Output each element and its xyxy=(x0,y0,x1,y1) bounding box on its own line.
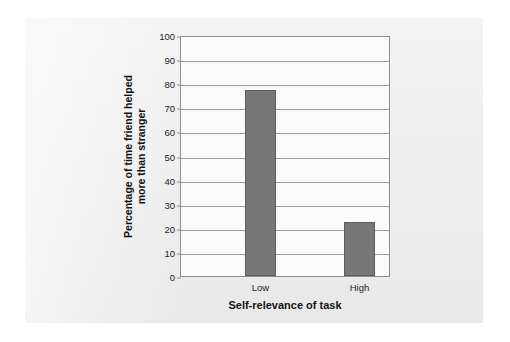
y-axis-tick-mark xyxy=(177,133,181,134)
y-axis-tick-label: 40 xyxy=(164,177,175,187)
x-axis-category-label: High xyxy=(350,283,370,293)
y-axis-tick-label: 70 xyxy=(164,105,175,115)
y-axis-tick-mark xyxy=(177,181,181,182)
x-axis-title: Self-relevance of task xyxy=(180,299,390,312)
figure-root: Percentage of time friend helped more th… xyxy=(0,0,510,342)
gridline xyxy=(181,206,389,207)
gridline xyxy=(181,158,389,159)
y-axis-tick-label: 10 xyxy=(164,249,175,259)
y-axis-tick-label: 80 xyxy=(164,80,175,90)
y-axis-tick-label: 30 xyxy=(164,201,175,211)
y-axis-tick-mark xyxy=(177,229,181,230)
y-axis-title-line-1: Percentage of time friend helped xyxy=(122,75,135,238)
y-axis-tick-label: 20 xyxy=(164,225,175,235)
y-axis-tick-mark xyxy=(177,157,181,158)
gridline xyxy=(181,133,389,134)
gridline xyxy=(181,109,389,110)
gridline xyxy=(181,61,389,62)
gridline xyxy=(181,182,389,183)
y-axis-title: Percentage of time friend helped more th… xyxy=(120,36,150,277)
bar-high xyxy=(344,222,375,276)
bar-chart: Percentage of time friend helped more th… xyxy=(25,18,483,323)
y-axis-tick-mark xyxy=(177,109,181,110)
gridline xyxy=(181,85,389,86)
bar-low xyxy=(245,90,276,276)
y-axis-tick-mark xyxy=(177,253,181,254)
y-axis-title-line-2: more than stranger xyxy=(135,109,148,205)
scanned-page-panel: Percentage of time friend helped more th… xyxy=(25,18,483,323)
y-axis-tick-label: 100 xyxy=(159,32,175,42)
y-axis-tick-label: 50 xyxy=(164,153,175,163)
y-axis-tick-mark xyxy=(177,37,181,38)
y-axis-tick-label: 0 xyxy=(170,273,175,283)
y-axis-tick-mark xyxy=(177,205,181,206)
plot-area: 0102030405060708090100LowHigh xyxy=(180,36,390,277)
x-axis-category-label: Low xyxy=(252,283,269,293)
y-axis-tick-mark xyxy=(177,85,181,86)
y-axis-tick-label: 60 xyxy=(164,129,175,139)
y-axis-tick-mark xyxy=(177,61,181,62)
y-axis-tick-label: 90 xyxy=(164,56,175,66)
y-axis-tick-mark xyxy=(177,278,181,279)
